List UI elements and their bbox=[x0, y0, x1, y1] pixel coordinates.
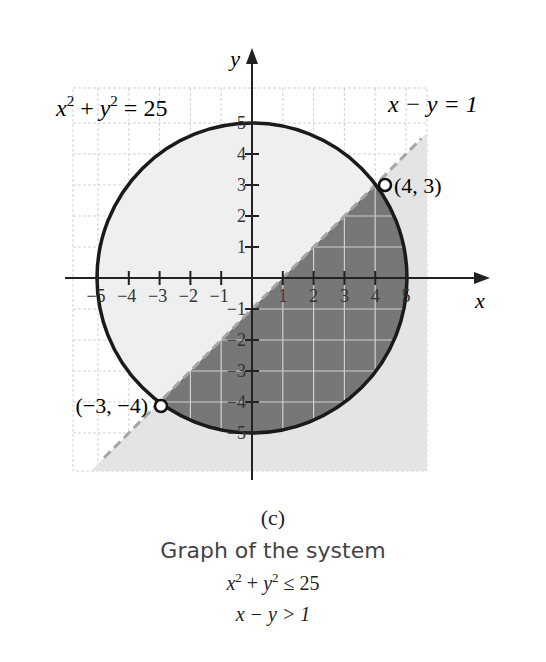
x-tick-label: −3 bbox=[148, 286, 167, 306]
x-tick-label: 5 bbox=[402, 286, 411, 306]
open-point-4-3 bbox=[379, 179, 391, 191]
caption-title: Graph of the system bbox=[0, 538, 546, 563]
y-tick-label: 5 bbox=[237, 113, 246, 133]
line-equation-label: x − y = 1 bbox=[387, 91, 478, 117]
system-graph: −5−4−3−2−112345 54321−1−2−3−4−5 y x x2 +… bbox=[0, 0, 546, 500]
x-tick-label: −4 bbox=[117, 286, 136, 306]
y-tick-label: 3 bbox=[237, 175, 246, 195]
caption-inequality-2: x − y > 1 bbox=[0, 603, 546, 626]
x-axis-label: x bbox=[474, 288, 485, 313]
y-tick-label: 1 bbox=[237, 237, 246, 257]
x-axis-arrow-icon bbox=[474, 272, 490, 284]
x-tick-label: 1 bbox=[278, 286, 287, 306]
y-tick-label: −2 bbox=[227, 330, 246, 350]
point-label-neg3-neg4: (−3, −4) bbox=[76, 393, 148, 418]
y-tick-label: −4 bbox=[227, 392, 246, 412]
y-tick-label: −1 bbox=[227, 299, 246, 319]
caption-inequality-1: x2 + y2 ≤ 25 bbox=[0, 570, 546, 595]
open-point-neg3-neg4 bbox=[155, 400, 167, 412]
x-tick-label: 3 bbox=[340, 286, 349, 306]
y-axis-label: y bbox=[228, 46, 240, 71]
x-tick-label: 4 bbox=[371, 286, 380, 306]
circle-equation-label: x2 + y2 = 25 bbox=[55, 93, 167, 121]
y-tick-label: −3 bbox=[227, 361, 246, 381]
x-tick-label: −5 bbox=[86, 286, 105, 306]
panel-label: (c) bbox=[0, 505, 546, 531]
x-tick-label: 2 bbox=[309, 286, 318, 306]
y-axis-arrow-icon bbox=[246, 48, 258, 64]
point-label-4-3: (4, 3) bbox=[394, 173, 442, 198]
y-tick-label: 2 bbox=[237, 206, 246, 226]
x-tick-label: −2 bbox=[179, 286, 198, 306]
y-tick-label: −5 bbox=[227, 423, 246, 443]
y-tick-label: 4 bbox=[237, 144, 246, 164]
